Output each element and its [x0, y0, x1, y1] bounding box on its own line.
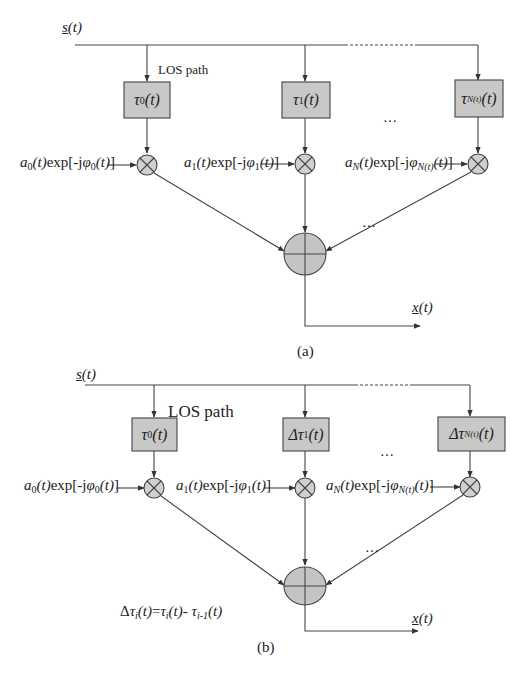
delay-block-0-label: τ0(t) [124, 82, 170, 118]
delay-block-1-label: τ1(t) [282, 82, 330, 118]
ellipsis-paths-a: … [362, 215, 377, 231]
delay-block-n-label: τN(t)(t) [455, 80, 503, 117]
output-arrow [305, 275, 420, 326]
delay-block-1-label: Δτ1(t) [283, 418, 329, 451]
multiplier-1 [295, 478, 315, 498]
los-path-label-b: LOS path [168, 403, 234, 420]
caption-a: (a) [297, 344, 314, 359]
multiplier-0 [144, 478, 164, 498]
multiplier-n [460, 477, 480, 497]
mult0-to-adder-arrow [161, 496, 284, 585]
multn-to-adder-arrow [326, 172, 471, 251]
adder [284, 233, 326, 275]
gain-0-label-b: a0(t)exp[-jφ0(t)] [24, 478, 119, 495]
ellipsis-paths-b: … [365, 540, 380, 556]
input-signal-label-a: s(t) [62, 20, 82, 35]
gain-1-label-a: a1(t)exp[-jφ1(t)] [184, 155, 279, 172]
ellipsis-blocks-b: … [380, 444, 395, 460]
adder [284, 567, 326, 605]
ellipsis-blocks-a: … [383, 110, 398, 126]
input-signal-label-b: s(t) [76, 367, 96, 382]
gain-n-label-a: aN(t)exp[-jφN(t)(t)] [345, 155, 453, 172]
block-diagram-canvas [0, 0, 529, 678]
multiplier-0 [137, 155, 157, 175]
caption-b: (b) [257, 640, 275, 655]
output-arrow [305, 605, 418, 631]
gain-1-label-b: a1(t)exp[-jφ1(t)] [176, 478, 271, 495]
los-path-label-a: LOS path [158, 63, 208, 76]
delay-block-0-label: τ0(t) [132, 418, 177, 451]
output-signal-label-b: x(t) [412, 611, 433, 626]
mult0-to-adder-arrow [154, 173, 284, 251]
delay-block-n-label: ΔτN(t)(t) [438, 417, 505, 451]
multn-to-adder-arrow [326, 495, 463, 585]
output-signal-label-a: x(t) [412, 300, 433, 315]
multiplier-1 [295, 154, 315, 174]
multiplier-n [468, 154, 488, 174]
delta-tau-formula: Δτi(t)=τi(t)- τi-1(t) [120, 604, 222, 621]
gain-n-label-b: aN(t)exp[-jφN(t)(t)] [326, 478, 434, 495]
gain-0-label-a: a0(t)exp[-jφ0(t)] [20, 155, 115, 172]
